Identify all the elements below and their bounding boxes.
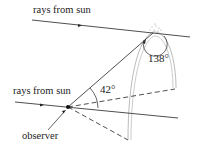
bottom-ray-label: rays from sun [13, 86, 71, 97]
top-ray-arrow-icon [78, 24, 82, 27]
observer-pointer-line [48, 112, 64, 130]
observer-point [66, 105, 70, 109]
raindrop-icon [149, 23, 161, 31]
angle-arc-42 [90, 88, 98, 108]
angle-42-label: 42° [100, 84, 115, 95]
observer-arrow-icon [62, 110, 66, 114]
bottom-sun-ray [15, 102, 178, 118]
antisolar-dashed-line [68, 89, 175, 107]
observer-label: observer [22, 131, 58, 142]
bottom-ray-arrow-icon [40, 104, 44, 107]
top-ray-label: rays from sun [33, 5, 91, 16]
observer-to-drop-line [68, 33, 153, 107]
top-sun-ray [32, 20, 190, 37]
angle-138-label: 138° [148, 53, 169, 64]
rainbow-diagram [0, 0, 201, 151]
